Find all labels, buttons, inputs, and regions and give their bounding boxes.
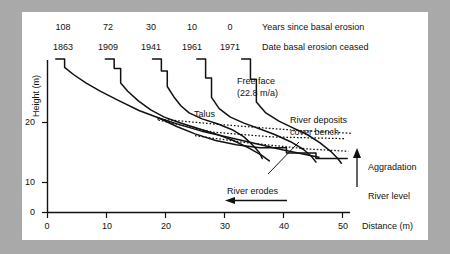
y-tick-label-0: 0: [30, 208, 35, 217]
erosion-profile-plot: [22, 12, 428, 240]
river-deposits-label-line1: River deposits: [290, 116, 347, 125]
aggradation-label: Aggradation: [368, 163, 417, 172]
y-tick-label-10: 10: [25, 178, 35, 187]
river-level-label: River level: [368, 192, 410, 201]
y-tick-label-20: 20: [25, 118, 35, 127]
river-erodes-label: River erodes: [227, 187, 278, 196]
free-face-rate-label: (22.8 m/a): [237, 89, 278, 98]
aggradation-arrow-head: [353, 148, 361, 158]
x-tick-label-30: 30: [220, 222, 230, 231]
profile-line-1863: [56, 59, 319, 157]
river-deposits-label-line2: cover bench: [290, 128, 339, 137]
x-axis-title: Distance (m): [362, 222, 413, 231]
river-deposits-leader: [268, 142, 299, 174]
x-tick-label-20: 20: [161, 222, 171, 231]
talus-label: Talus: [194, 110, 215, 119]
figure-panel: 108 72 30 10 0 Years since basal erosion…: [22, 12, 428, 240]
river-erodes-arrow-head: [225, 197, 235, 204]
x-tick-label-50: 50: [338, 222, 348, 231]
x-tick-label-0: 0: [44, 222, 49, 231]
x-tick-label-40: 40: [279, 222, 289, 231]
annotation-leader-lines: [268, 142, 299, 174]
x-tick-label-10: 10: [102, 222, 112, 231]
free-face-label: Free face: [237, 77, 275, 86]
